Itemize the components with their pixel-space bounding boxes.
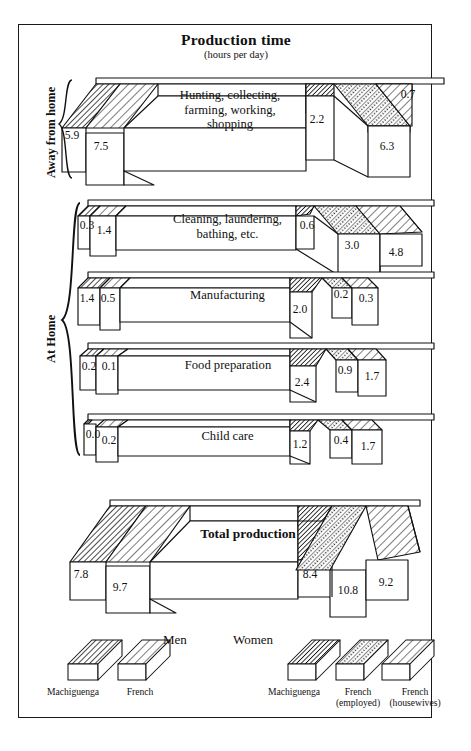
value-hunting-fr-men: 7.5 (86, 140, 116, 153)
value-childcare-fr-house-women: 1.7 (354, 440, 382, 453)
axis-group-label-away: Away from home (44, 87, 59, 178)
value-food-fr-men: 0.1 (96, 360, 122, 373)
value-food-fr-emp-women: 0.9 (332, 364, 358, 377)
category-label-cleaning: Cleaning, laundering, bathing, etc. (145, 212, 310, 241)
value-cleaning-mach-women: 0.6 (294, 219, 320, 232)
legend-item-mach-men: Machiguenga (30, 687, 116, 698)
value-cleaning-fr-emp-women: 3.0 (338, 239, 366, 252)
value-manufacturing-fr-emp-women: 0.2 (328, 288, 354, 301)
category-label-childcare: Child care (150, 429, 305, 444)
page-title: Production time (86, 31, 386, 49)
chart-stage: Production time (hours per day) Away fro… (0, 0, 471, 751)
legend-group-women: Women (233, 632, 273, 648)
legend-item-fr-house-women: French (housewives) (375, 687, 455, 708)
category-label-hunting: Hunting, collecting, farming, working, s… (150, 88, 310, 132)
value-total-fr-emp-women: 10.8 (330, 584, 366, 597)
value-food-fr-house-women: 1.7 (358, 370, 386, 383)
value-hunting-mach-women: 2.2 (303, 113, 331, 126)
category-label-food: Food preparation (148, 358, 308, 373)
value-manufacturing-fr-men: 0.5 (94, 292, 122, 305)
value-hunting-fr-house-women: 6.3 (372, 140, 402, 153)
value-manufacturing-mach-women: 2.0 (286, 303, 314, 316)
value-hunting-mach-men: 5.9 (58, 129, 86, 142)
value-total-fr-house-women: 9.2 (370, 576, 402, 589)
value-childcare-fr-emp-women: 0.4 (328, 434, 354, 447)
value-food-mach-women: 2.4 (288, 376, 316, 389)
category-label-total: Total production (178, 526, 318, 542)
value-childcare-fr-men: 0.2 (96, 434, 122, 447)
legend-group-men: Men (163, 632, 187, 648)
value-hunting-fr-emp-women: 0.7 (394, 88, 422, 101)
legend-item-fr-men: French (110, 687, 170, 698)
page-subtitle: (hours per day) (86, 49, 386, 60)
value-manufacturing-fr-house-women: 0.3 (352, 292, 380, 305)
axis-group-label-home: At Home (44, 315, 59, 363)
value-cleaning-fr-men: 1.4 (90, 224, 118, 237)
value-total-mach-women: 8.4 (294, 568, 326, 581)
value-childcare-mach-women: 1.2 (286, 438, 314, 451)
value-total-mach-men: 7.8 (66, 568, 96, 581)
category-label-manufacturing: Manufacturing (150, 288, 305, 303)
value-cleaning-fr-house-women: 4.8 (382, 246, 410, 259)
value-total-fr-men: 9.7 (104, 581, 136, 594)
